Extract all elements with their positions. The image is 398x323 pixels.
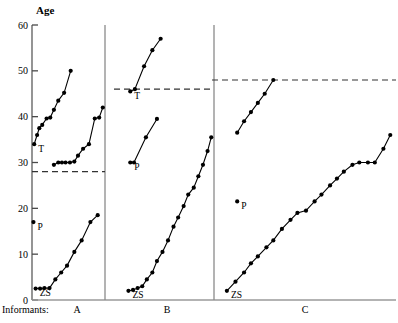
panel-label-A: A [73,304,81,315]
data-point-B-ZS-series-11 [182,204,186,208]
data-point-A-T-series-8 [62,91,66,95]
data-point-C-ZS-series-4 [256,254,260,258]
data-point-A-ZS-series-10 [96,213,100,217]
data-point-A-mid-series-5 [72,159,76,163]
data-point-A-ZS-series-5 [59,270,63,274]
data-point-A-mid-series-10 [97,115,101,119]
data-point-C-upper-series-0 [235,131,239,135]
panel-label-C: C [302,304,309,315]
data-point-C-ZS-series-17 [357,160,361,164]
y-tick-label-40: 40 [18,111,28,122]
data-point-A-mid-series-0 [52,163,56,167]
data-point-A-T-series-4 [45,116,49,120]
data-point-A-T-series-9 [69,69,73,73]
data-point-C-ZS-series-14 [335,176,339,180]
point-label-B-T-series: T [134,91,140,101]
data-point-A-T-series-3 [40,123,44,127]
series-line-C-upper-series [237,80,273,133]
data-point-C-ZS-series-7 [280,227,284,231]
data-point-B-ZS-series-16 [205,149,209,153]
series-line-A-T-series [34,71,71,144]
data-point-C-ZS-series-2 [242,270,246,274]
data-point-B-ZS-series-3 [140,284,144,288]
data-point-B-T-series-3 [150,48,154,52]
panel-label-B: B [164,304,171,315]
data-point-C-ZS-series-0 [225,289,229,293]
data-point-B-T-series-0 [128,89,132,93]
data-point-C-ZS-series-13 [328,183,332,187]
y-tick-label-10: 10 [18,249,28,260]
data-point-A-P-marker-0 [31,220,35,224]
informants-caption: Informants: [2,304,49,315]
data-point-C-upper-series-5 [271,78,275,82]
data-point-A-mid-series-4 [68,160,72,164]
data-point-B-ZS-series-14 [196,174,200,178]
data-point-C-ZS-series-16 [350,163,354,167]
data-point-C-P-marker-0 [235,199,239,203]
point-label-C-P-marker: P [241,201,246,211]
y-tick-label-30: 30 [18,157,28,168]
data-point-C-ZS-series-18 [366,160,370,164]
data-point-A-mid-series-2 [60,160,64,164]
data-point-C-ZS-series-15 [342,170,346,174]
data-point-C-ZS-series-8 [288,218,292,222]
data-point-A-T-series-2 [37,126,41,130]
data-point-C-upper-series-1 [242,119,246,123]
data-point-C-upper-series-2 [249,110,253,114]
series-line-B-P-series [130,119,157,163]
series-line-B-ZS-series [128,137,211,291]
data-point-A-ZS-series-9 [88,220,92,224]
age-informants-chart: Age6050403020100Informants:TZSPATPZSBPZS… [0,0,398,323]
data-point-B-ZS-series-10 [176,215,180,219]
data-point-B-P-series-2 [144,135,148,139]
data-point-A-mid-series-1 [56,160,60,164]
data-point-A-mid-series-9 [93,116,97,120]
data-point-C-ZS-series-21 [388,133,392,137]
data-point-C-ZS-series-12 [319,192,323,196]
data-point-A-mid-series-8 [87,142,91,146]
y-tick-label-60: 60 [18,20,28,31]
data-point-A-mid-series-11 [101,105,105,109]
data-point-A-T-series-6 [52,108,56,112]
data-point-C-ZS-series-10 [304,209,308,213]
data-point-B-ZS-series-4 [145,277,149,281]
data-point-A-T-series-0 [32,142,36,146]
data-point-A-ZS-series-8 [80,238,84,242]
data-point-B-ZS-series-0 [126,289,130,293]
data-point-C-upper-series-3 [256,101,260,105]
point-label-B-P-series: P [134,162,139,172]
data-point-B-T-series-2 [142,64,146,68]
data-point-A-ZS-series-7 [72,250,76,254]
data-point-A-ZS-series-0 [34,286,38,290]
data-point-C-ZS-series-20 [381,147,385,151]
data-point-B-ZS-series-9 [171,225,175,229]
data-point-B-P-series-3 [155,117,159,121]
data-point-C-ZS-series-1 [233,280,237,284]
series-line-C-ZS-series [227,135,390,291]
data-point-C-ZS-series-3 [249,261,253,265]
point-label-C-ZS-series: ZS [231,290,242,300]
data-point-A-mid-series-7 [81,147,85,151]
point-label-A-ZS-series: ZS [40,288,51,298]
point-label-B-ZS-series: ZS [132,290,143,300]
data-point-A-T-series-7 [56,99,60,103]
data-point-C-ZS-series-19 [373,160,377,164]
data-point-A-T-series-1 [35,133,39,137]
data-point-A-ZS-series-6 [65,264,69,268]
data-point-C-ZS-series-5 [264,245,268,249]
data-point-B-ZS-series-15 [201,163,205,167]
data-point-B-ZS-series-5 [150,270,154,274]
data-point-A-ZS-series-4 [53,277,57,281]
data-point-C-ZS-series-9 [295,211,299,215]
data-point-B-ZS-series-8 [166,238,170,242]
figure-root: Age6050403020100Informants:TZSPATPZSBPZS… [0,0,398,323]
y-tick-label-50: 50 [18,65,28,76]
y-axis-title: Age [36,4,54,16]
data-point-A-T-series-5 [48,115,52,119]
data-point-B-ZS-series-17 [209,135,213,139]
series-line-A-ZS-series [36,215,98,288]
data-point-C-ZS-series-11 [313,199,317,203]
data-point-B-ZS-series-13 [192,186,196,190]
data-point-B-P-series-0 [128,160,132,164]
point-label-A-T-series: T [38,144,44,154]
